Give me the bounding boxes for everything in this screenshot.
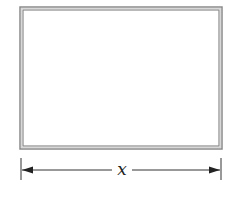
rectangle-diagram: x: [0, 0, 231, 199]
rectangle-frame: [20, 7, 222, 149]
right-arrowhead-icon: [209, 167, 220, 174]
dimension-line: x: [21, 158, 221, 180]
dimension-label: x: [117, 159, 127, 179]
left-arrowhead-icon: [22, 167, 33, 174]
